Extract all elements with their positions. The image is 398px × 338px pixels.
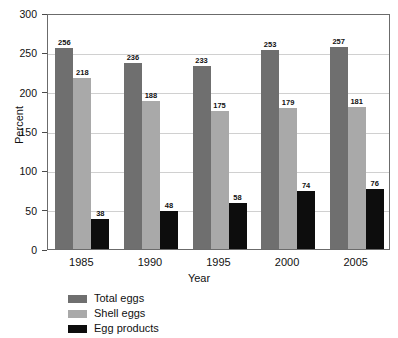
- bar-value-label: 236: [127, 54, 140, 62]
- bar-chart: Percent 050100150200250300 2562183823618…: [0, 0, 398, 338]
- y-tick-label: 200: [3, 88, 37, 98]
- bar: 76: [366, 189, 384, 249]
- legend-swatch: [68, 310, 87, 318]
- bar: 257: [330, 47, 348, 249]
- bar: 58: [229, 203, 247, 249]
- y-tick-label: 0: [3, 245, 37, 255]
- chart-legend: Total eggsShell eggsEgg products: [68, 291, 159, 336]
- plot-area: 2562183823618848233175582531797425718176: [47, 14, 390, 250]
- x-tick-label: 1995: [184, 256, 254, 269]
- bar-value-label: 175: [213, 102, 226, 110]
- x-axis-title: Year: [0, 272, 398, 284]
- bar: 236: [124, 63, 142, 249]
- bar: 188: [142, 101, 160, 249]
- bar-value-label: 256: [58, 39, 71, 47]
- bar: 179: [279, 108, 297, 249]
- bar-value-label: 38: [96, 210, 104, 218]
- x-tick-label: 1990: [115, 256, 185, 269]
- bar: 233: [193, 66, 211, 249]
- bar: 256: [55, 48, 73, 249]
- bar-value-label: 218: [76, 69, 89, 77]
- legend-label: Shell eggs: [94, 307, 145, 320]
- legend-label: Total eggs: [94, 292, 144, 305]
- bar: 38: [91, 219, 109, 249]
- bar: 74: [297, 191, 315, 249]
- x-tick-label: 2000: [252, 256, 322, 269]
- legend-swatch: [68, 325, 87, 333]
- y-tick-label: 150: [3, 127, 37, 137]
- bar: 253: [261, 50, 279, 249]
- y-tick-label: 50: [3, 206, 37, 216]
- bar: 175: [211, 111, 229, 249]
- x-tick-label: 1985: [46, 256, 116, 269]
- x-tick-label: 2005: [321, 256, 391, 269]
- legend-item: Egg products: [68, 321, 159, 336]
- bar-value-label: 233: [195, 57, 208, 65]
- y-tick-label: 100: [3, 166, 37, 176]
- bar-value-label: 253: [264, 41, 277, 49]
- bar: 48: [160, 211, 178, 249]
- legend-item: Shell eggs: [68, 306, 159, 321]
- y-tick-label: 300: [3, 9, 37, 19]
- bar: 218: [73, 78, 91, 249]
- bar-value-label: 76: [371, 180, 379, 188]
- bar: 181: [348, 107, 366, 249]
- y-tick-label: 250: [3, 48, 37, 58]
- bar-value-label: 181: [350, 98, 363, 106]
- bar-value-label: 188: [145, 92, 158, 100]
- legend-label: Egg products: [94, 322, 159, 335]
- bar-value-label: 179: [282, 99, 295, 107]
- legend-swatch: [68, 295, 87, 303]
- legend-item: Total eggs: [68, 291, 159, 306]
- bar-value-label: 257: [332, 38, 345, 46]
- bar-value-label: 58: [233, 194, 241, 202]
- bar-value-label: 74: [302, 182, 310, 190]
- bar-value-label: 48: [165, 202, 173, 210]
